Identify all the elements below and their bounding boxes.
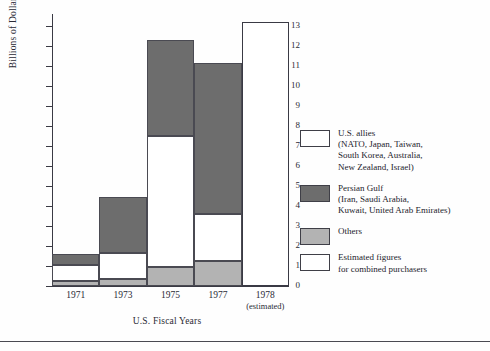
bar-segment-estimated[interactable] [242,22,289,286]
legend-label-line: for combined purchasers [338,264,488,275]
legend-swatch-gulf [300,185,330,202]
bar-segment-gulf[interactable] [52,254,99,265]
x-axis-title: U.S. Fiscal Years [44,316,290,326]
footer-divider [0,341,490,342]
bar-segment-gulf[interactable] [147,40,194,136]
x-tick-sublabel: (estimated) [242,301,289,312]
legend-item-allies[interactable]: U.S. allies(NATO, Japan, Taiwan,South Ko… [300,128,488,176]
bar-1978[interactable] [242,22,289,286]
bar-1977[interactable] [194,63,241,286]
x-tick-label-1977: 1977 [194,290,241,301]
bar-segment-allies[interactable] [99,253,146,279]
bar-segment-others[interactable] [99,279,146,286]
bar-group [52,14,289,286]
legend-label-line: Others [338,226,488,237]
bar-1971[interactable] [52,254,99,286]
legend-label-line: (Iran, Saudi Arabia, [338,194,488,205]
legend-item-gulf[interactable]: Persian Gulf(Iran, Saudi Arabia,Kuwait, … [300,183,488,220]
bar-segment-others[interactable] [147,267,194,286]
legend-swatch-others [300,228,330,245]
bar-1973[interactable] [99,197,146,286]
x-axis-ticks: 19711973197519771978(estimated) [52,290,289,318]
legend-label-line: (NATO, Japan, Taiwan, [338,139,488,150]
x-axis-line [52,286,289,287]
legend-label-line: Estimated figures [338,252,488,263]
bar-segment-gulf[interactable] [99,197,146,253]
x-tick-label-1973: 1973 [99,290,146,301]
legend-label-line: South Korea, Australia, [338,150,488,161]
bar-segment-allies[interactable] [194,214,241,261]
chart-plot-area: Billions of Dollars 012345678910111213 1… [0,0,300,330]
bar-segment-gulf[interactable] [194,63,241,214]
bar-segment-others[interactable] [194,261,241,286]
figure: Billions of Dollars 012345678910111213 1… [0,0,490,351]
legend-label-line: U.S. allies [338,128,488,139]
legend-label-line: New Zealand, Israel) [338,162,488,173]
legend-item-others[interactable]: Others [300,226,488,245]
legend-swatch-est [300,254,330,271]
x-tick-label-1978: 1978(estimated) [242,290,289,312]
y-axis-title: Billions of Dollars [8,0,18,96]
bar-segment-allies[interactable] [52,265,99,281]
bar-segment-allies[interactable] [147,136,194,267]
legend-swatch-allies [300,130,330,147]
chart-legend: U.S. allies(NATO, Japan, Taiwan,South Ko… [300,128,488,285]
bar-segment-others[interactable] [52,281,99,286]
legend-label: Others [338,226,488,237]
bar-1975[interactable] [147,40,194,286]
y-tick-mark [46,286,53,287]
legend-label: Estimated figuresfor combined purchasers [338,252,488,274]
x-tick-label-1971: 1971 [52,290,99,301]
legend-label-line: Persian Gulf [338,183,488,194]
legend-label: U.S. allies(NATO, Japan, Taiwan,South Ko… [338,128,488,173]
x-tick-label-1975: 1975 [147,290,194,301]
legend-label-line: Kuwait, United Arab Emirates) [338,205,488,216]
legend-item-est[interactable]: Estimated figuresfor combined purchasers [300,252,488,277]
legend-label: Persian Gulf(Iran, Saudi Arabia,Kuwait, … [338,183,488,217]
